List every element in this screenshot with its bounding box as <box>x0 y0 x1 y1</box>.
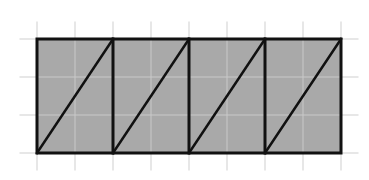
grid-diagram <box>0 0 369 180</box>
diagram-canvas <box>0 0 369 180</box>
